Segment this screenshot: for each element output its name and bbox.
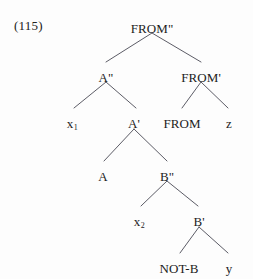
tree-node-label: A" — [99, 70, 114, 85]
tree-node-subscript: 2 — [141, 221, 145, 230]
tree-node-subscript: 1 — [74, 123, 78, 132]
tree-node-y: y — [226, 262, 233, 275]
tree-edge-root-to-a2 — [106, 33, 152, 62]
tree-node-label: A' — [128, 116, 140, 131]
tree-node-notb: NOT-B — [159, 262, 198, 275]
tree-node-x1: x1 — [67, 117, 78, 130]
tree-node-label: FROM" — [131, 21, 174, 36]
tree-node-b2: B" — [160, 170, 174, 183]
tree-edge-a1-to-a0 — [104, 129, 134, 161]
tree-node-label: z — [226, 116, 232, 131]
tree-node-label: B" — [160, 169, 174, 184]
tree-node-label: x — [67, 116, 74, 131]
tree-node-label: A — [98, 169, 108, 184]
tree-edge-b1-to-notb — [180, 227, 199, 253]
tree-node-label: FROM' — [181, 70, 221, 85]
tree-node-from0: FROM — [163, 117, 200, 130]
figure-container: (115) FROM"A"FROM'x1A'FROMzAB"x2B'NOT-By — [0, 0, 253, 279]
tree-node-label: x — [134, 214, 141, 229]
tree-edge-a2-to-a1 — [106, 82, 136, 108]
tree-node-a2: A" — [99, 71, 114, 84]
tree-node-label: NOT-B — [159, 261, 198, 276]
tree-node-x2: x2 — [134, 215, 145, 228]
tree-node-a0: A — [98, 170, 108, 183]
tree-node-label: FROM — [163, 116, 200, 131]
tree-node-a1: A' — [128, 117, 140, 130]
tree-node-label: y — [226, 261, 233, 276]
tree-node-label: B' — [193, 214, 204, 229]
tree-node-b1: B' — [193, 215, 204, 228]
tree-node-root: FROM" — [131, 22, 174, 35]
tree-edge-root-to-from1 — [152, 33, 201, 62]
tree-edge-b2-to-b1 — [167, 181, 198, 206]
example-number-label: (115) — [14, 19, 43, 32]
tree-node-from1: FROM' — [181, 71, 221, 84]
tree-edge-from1-to-from0 — [182, 82, 201, 108]
tree-node-z: z — [226, 117, 232, 130]
tree-edge-a2-to-x1 — [74, 82, 106, 108]
tree-edge-b1-to-y — [199, 227, 228, 253]
tree-edges-layer — [0, 0, 253, 279]
tree-edge-b2-to-x2 — [141, 181, 167, 206]
tree-edge-a1-to-b2 — [134, 129, 167, 161]
tree-edge-from1-to-z — [201, 82, 228, 108]
